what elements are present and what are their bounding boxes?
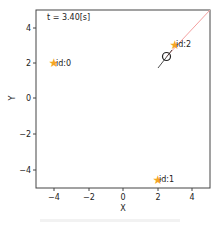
landmark-label: id:2: [176, 40, 191, 49]
y-tick: 0: [26, 94, 31, 103]
y-tick: −4: [19, 166, 31, 175]
landmark-id-0: ★ id:0: [49, 56, 71, 70]
x-axis: −4 −2 0 2 4 X: [48, 188, 194, 213]
x-tick: 2: [155, 193, 160, 202]
y-tick: 4: [26, 24, 31, 33]
x-axis-label: X: [120, 204, 126, 213]
landmark-label: id:1: [159, 175, 174, 184]
x-tick: −2: [83, 193, 95, 202]
time-annotation: t = 3.40[s]: [47, 13, 90, 22]
x-tick: 0: [120, 193, 125, 202]
y-tick: 2: [26, 59, 31, 68]
landmark-id-1: ★ id:1: [153, 173, 174, 187]
y-axis: 4 2 0 −2 −4 Y: [8, 24, 36, 175]
y-axis-label: Y: [8, 95, 17, 101]
landmark-id-2: ★ id:2: [170, 38, 191, 52]
chart: ★ id:0 ★ id:1 ★ id:2 t = 3.40[s] −4 −2 0…: [0, 0, 221, 225]
x-tick: 4: [189, 193, 194, 202]
y-tick: −2: [19, 130, 31, 139]
x-tick: −4: [48, 193, 60, 202]
caption-faint: [40, 219, 180, 222]
landmark-label: id:0: [56, 59, 71, 68]
plot-frame: [36, 10, 210, 188]
